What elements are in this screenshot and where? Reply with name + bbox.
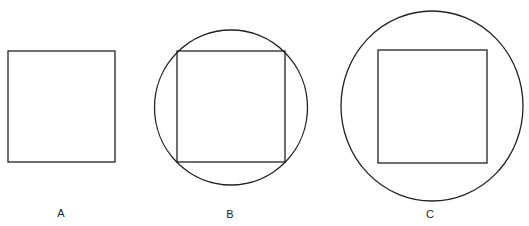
- square-c: [378, 50, 487, 163]
- label-c: C: [426, 208, 434, 220]
- square-a: [8, 51, 115, 162]
- label-a: A: [57, 207, 64, 219]
- label-b: B: [226, 208, 233, 220]
- circle-c: [341, 11, 523, 201]
- square-b: [177, 51, 285, 162]
- diagram-canvas: [0, 0, 529, 226]
